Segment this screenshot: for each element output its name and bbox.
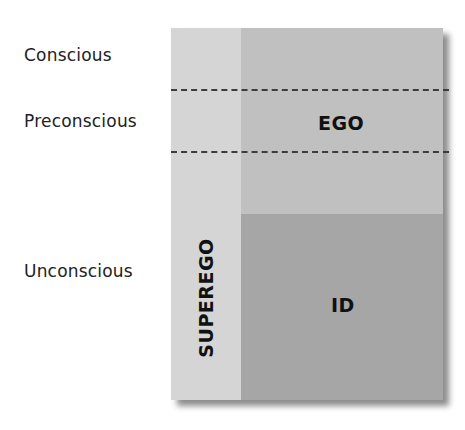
label-unconscious: Unconscious bbox=[24, 261, 133, 281]
personality-structure-diagram: EGO ID SUPEREGO bbox=[171, 28, 443, 400]
ego-label: EGO bbox=[318, 112, 364, 134]
id-label: ID bbox=[331, 294, 355, 316]
preconscious-unconscious-divider bbox=[171, 151, 449, 153]
label-preconscious: Preconscious bbox=[24, 111, 137, 131]
label-conscious: Conscious bbox=[24, 45, 112, 65]
conscious-preconscious-divider bbox=[171, 89, 449, 91]
superego-label: SUPEREGO bbox=[195, 238, 217, 357]
